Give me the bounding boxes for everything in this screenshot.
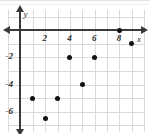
data-point	[43, 116, 48, 121]
x-axis-left-arrow	[3, 26, 10, 34]
x-axis-label: x	[137, 35, 141, 44]
y-axis-down-arrow	[16, 129, 24, 134]
x-tick-label: 4	[67, 34, 72, 43]
x-axis-right-arrow	[141, 26, 148, 34]
data-point	[80, 82, 85, 87]
y-axis-line	[19, 12, 21, 132]
scan-artifact-top	[0, 0, 150, 1]
x-tick-label: 2	[43, 34, 48, 43]
gridline-horizontal	[8, 71, 144, 72]
grid-layer	[8, 10, 144, 132]
gridline-horizontal	[8, 125, 144, 126]
y-tick-label: -6	[5, 107, 13, 116]
gridline-horizontal	[8, 85, 144, 86]
gridline-horizontal	[8, 98, 144, 99]
data-point	[55, 96, 60, 101]
data-point	[30, 96, 35, 101]
y-tick-label: -4	[5, 80, 13, 89]
scatter-plot: x y 2468 -2-4-6	[8, 10, 144, 132]
y-axis-label: y	[23, 10, 27, 19]
x-axis-line	[8, 29, 142, 31]
gridline-horizontal	[8, 112, 144, 113]
data-point	[92, 55, 97, 60]
gridline-horizontal	[8, 57, 144, 58]
x-tick-label: 6	[92, 34, 97, 43]
screenshot-root: x y 2468 -2-4-6	[0, 0, 150, 134]
y-tick-label: -2	[5, 52, 13, 61]
gridline-horizontal	[8, 17, 144, 18]
gridline-horizontal	[8, 44, 144, 45]
x-tick-label: 8	[117, 34, 122, 43]
data-point	[117, 28, 122, 33]
